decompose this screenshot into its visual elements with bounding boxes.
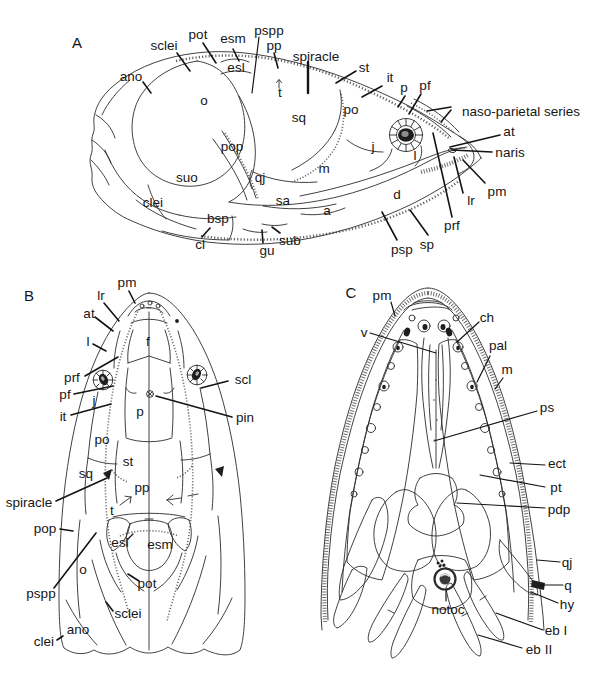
label-c-ps: ps [540,401,554,415]
label-a-sclei: sclei [150,39,177,53]
label-a-ano: ano [120,70,143,84]
figure-canvas: A B C ano sclei pot esm pspp pp esl spir… [0,0,614,676]
palatal-teeth [351,342,505,497]
panel-b-letter: B [24,288,34,303]
label-c-m: m [501,363,512,377]
label-b-st: st [123,455,134,469]
label-b-clei: clei [34,635,54,649]
label-a-it: it [387,71,394,85]
label-c-ch: ch [480,311,494,325]
label-b-it: it [60,410,67,424]
label-a-esl: esl [227,61,244,75]
label-b-pot: pot [138,577,157,591]
label-a-p: p [400,81,408,95]
eye-sclerotic-ring [390,119,423,152]
label-b-ano: ano [67,623,90,637]
label-a-sq: sq [292,111,306,125]
label-c-notoc: notoc [431,603,464,617]
panel-a-leader-lines [143,37,500,243]
label-b-j: j [93,394,96,408]
label-b-po: po [94,433,109,447]
notochord-pit [435,569,456,590]
panel-c-letter: C [346,285,357,300]
label-a-at: at [503,125,514,139]
label-c-v: v [361,326,368,340]
label-a-pspp: pspp [254,24,283,38]
label-a-spiracle: spiracle [293,50,340,64]
pineal-foramen [147,391,154,398]
label-a-psp: psp [391,243,413,257]
orbit-right [187,365,207,385]
label-a-sub: sub [279,234,301,248]
label-a-pot: pot [189,28,208,42]
label-c-hy: hy [560,598,574,612]
label-b-t: t [110,504,114,518]
label-a-pf: pf [419,79,430,93]
label-b-p: p [136,405,144,419]
label-b-esm: esm [147,538,173,552]
label-a-bsp: bsp [207,212,229,226]
label-a-esm: esm [220,32,246,46]
label-a-cl: cl [195,238,205,252]
label-a-suo: suo [176,171,198,185]
label-c-q: q [564,579,572,593]
label-a-naso-parietal-series: naso-parietal series [462,105,580,119]
label-a-pp: pp [266,39,281,53]
label-c-eb-i: eb I [545,624,568,638]
label-b-spiracle: spiracle [6,496,53,510]
skull-drawings [0,0,614,676]
label-b-pop: pop [34,522,57,536]
label-b-pin: pin [236,411,254,425]
label-c-qj: qj [562,556,573,570]
label-a-a: a [323,204,331,218]
label-a-prf: prf [444,219,460,233]
label-a-po: po [343,103,358,117]
label-a-l: l [414,149,417,163]
label-a-o: o [200,94,208,108]
label-b-at: at [83,307,94,321]
label-b-o: o [79,563,87,577]
label-a-naris: naris [495,146,524,160]
label-a-j: j [372,140,375,154]
label-b-pspp: pspp [26,587,55,601]
label-a-sa: sa [276,194,290,208]
label-a-t: t [278,86,282,100]
label-c-pdp: pdp [548,503,571,517]
label-b-pp: pp [134,481,149,495]
label-a-gu: gu [259,244,274,258]
label-c-pt: pt [550,481,561,495]
panel-c-leader-lines [370,302,563,648]
label-a-pm: pm [488,185,507,199]
label-a-lr: lr [467,194,475,208]
label-c-pm: pm [373,289,392,303]
label-a-qj: qj [255,171,266,185]
label-a-clei: clei [143,196,163,210]
label-b-f: f [146,335,150,349]
label-b-scl: scl [235,373,252,387]
label-a-m: m [318,162,329,176]
label-a-sp: sp [420,238,434,252]
label-b-sq: sq [79,467,93,481]
label-b-lr: lr [97,289,105,303]
label-b-l: l [87,335,90,349]
label-b-pf: pf [59,388,70,402]
label-b-prf: prf [64,371,80,385]
label-b-esl: esl [111,536,128,550]
label-c-eb-ii: eb II [526,643,552,657]
label-a-pop: pop [221,140,244,154]
label-b-sclei: sclei [114,607,141,621]
label-c-pal: pal [489,339,507,353]
panel-a-letter: A [72,35,82,50]
label-a-d: d [393,188,401,202]
label-a-st: st [359,61,370,75]
label-c-ect: ect [548,457,566,471]
label-b-pm: pm [118,276,137,290]
